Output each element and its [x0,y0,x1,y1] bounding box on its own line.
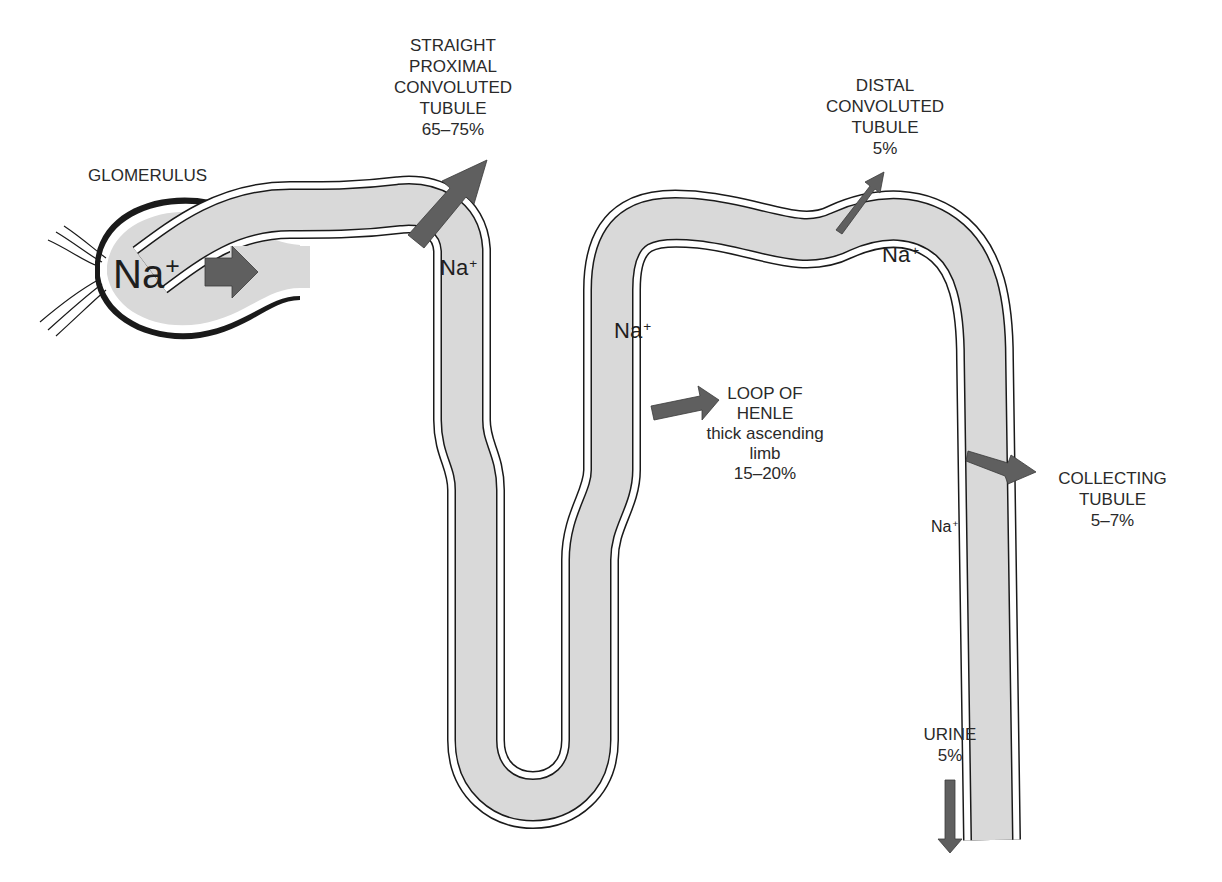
ion-symbol: Na [882,242,910,267]
ion-symbol: Na [614,318,642,343]
ion-charge: + [643,319,651,334]
distal-line-3: TUBULE [820,117,950,138]
distal-line-2: CONVOLUTED [820,96,950,117]
loop-percent: 15–20% [695,464,835,484]
proximal-line-4: TUBULE [383,98,523,119]
proximal-line-1: STRAIGHT [383,35,523,56]
collecting-line-2: TUBULE [1040,489,1185,510]
proximal-line-2: PROXIMAL [383,56,523,77]
distal-tubule-label: DISTAL CONVOLUTED TUBULE 5% [820,75,950,159]
distal-line-1: DISTAL [820,75,950,96]
na-ion-distal: Na+ [882,242,919,268]
na-ion-collecting: Na+ [931,518,958,536]
ion-charge: + [952,518,958,529]
ion-charge: + [165,252,179,279]
urine-line-1: URINE [910,724,990,745]
proximal-line-3: CONVOLUTED [383,77,523,98]
loop-line-2: HENLE [695,404,835,424]
arterioles [40,226,106,336]
na-ion-glomerulus: Na+ [113,252,180,297]
na-ion-loop: Na+ [614,318,651,344]
collecting-percent: 5–7% [1040,510,1185,531]
loop-line-3: thick ascending [695,424,835,444]
ion-symbol: Na [931,518,951,535]
glomerulus-label: GLOMERULUS [88,166,207,186]
ion-charge: + [469,256,477,271]
nephron-diagram [0,0,1222,882]
ion-symbol: Na [113,252,164,296]
loop-line-1: LOOP OF [695,384,835,404]
proximal-tubule-label: STRAIGHT PROXIMAL CONVOLUTED TUBULE 65–7… [383,35,523,140]
proximal-percent: 65–75% [383,119,523,140]
loop-line-4: limb [695,444,835,464]
ion-symbol: Na [440,255,468,280]
glomerulus-label-text: GLOMERULUS [88,166,207,186]
urine-percent: 5% [910,745,990,766]
na-ion-proximal: Na+ [440,255,477,281]
collecting-tubule-label: COLLECTING TUBULE 5–7% [1040,468,1185,531]
urine-arrow-icon [938,780,962,853]
urine-label: URINE 5% [910,724,990,766]
loop-of-henle-label: LOOP OF HENLE thick ascending limb 15–20… [695,384,835,484]
ion-charge: + [911,243,919,258]
collecting-line-1: COLLECTING [1040,468,1185,489]
distal-percent: 5% [820,138,950,159]
